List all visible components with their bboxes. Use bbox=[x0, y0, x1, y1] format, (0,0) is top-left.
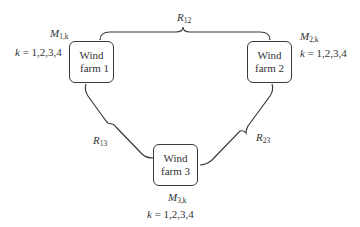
wind-farm-1-line2: farm 1 bbox=[74, 62, 109, 75]
wind-farm-correlation-diagram: Wind farm 1 M1,k k = 1,2,3,4 Wind farm 2… bbox=[0, 0, 360, 227]
link-var: R bbox=[93, 134, 100, 146]
k-var: k bbox=[15, 46, 20, 58]
k-values: = 1,2,3,4 bbox=[308, 47, 347, 59]
model-var: M bbox=[50, 27, 59, 39]
wind-farm-3-line1: Wind bbox=[164, 152, 188, 165]
wind-farm-3-line2: farm 3 bbox=[161, 165, 190, 178]
wind-farm-3-k-range: k = 1,2,3,4 bbox=[147, 208, 194, 220]
brace-r23 bbox=[200, 84, 273, 165]
link-sub: 12 bbox=[184, 16, 192, 25]
brace-r12 bbox=[100, 27, 270, 40]
model-var: M bbox=[168, 191, 177, 203]
wind-farm-1-box: Wind farm 1 bbox=[69, 41, 114, 83]
link-sub: 23 bbox=[263, 136, 271, 145]
wind-farm-3-box: Wind farm 3 bbox=[153, 144, 198, 186]
wind-farm-1-k-range: k = 1,2,3,4 bbox=[15, 46, 62, 58]
k-values: = 1,2,3,4 bbox=[23, 46, 62, 58]
k-values: = 1,2,3,4 bbox=[155, 208, 194, 220]
wind-farm-1-model-label: M1,k bbox=[50, 27, 69, 41]
k-var: k bbox=[300, 47, 305, 59]
link-r12-label: R12 bbox=[177, 11, 191, 25]
link-r13-label: R13 bbox=[93, 134, 107, 148]
model-sub: 3,k bbox=[177, 196, 186, 205]
wind-farm-2-line2: farm 2 bbox=[255, 62, 284, 75]
model-sub: 2,k bbox=[309, 35, 318, 44]
wind-farm-3-model-label: M3,k bbox=[168, 191, 187, 205]
wind-farm-2-box: Wind farm 2 bbox=[247, 41, 292, 83]
link-sub: 13 bbox=[100, 139, 108, 148]
k-var: k bbox=[147, 208, 152, 220]
wind-farm-1-line1: Wind bbox=[80, 49, 104, 62]
wind-farm-2-k-range: k = 1,2,3,4 bbox=[300, 47, 347, 59]
wind-farm-2-model-label: M2,k bbox=[300, 30, 319, 44]
link-r23-label: R23 bbox=[256, 131, 270, 145]
model-var: M bbox=[300, 30, 309, 42]
link-var: R bbox=[256, 131, 263, 143]
wind-farm-2-line1: Wind bbox=[258, 49, 282, 62]
link-var: R bbox=[177, 11, 184, 23]
model-sub: 1,k bbox=[59, 32, 68, 41]
